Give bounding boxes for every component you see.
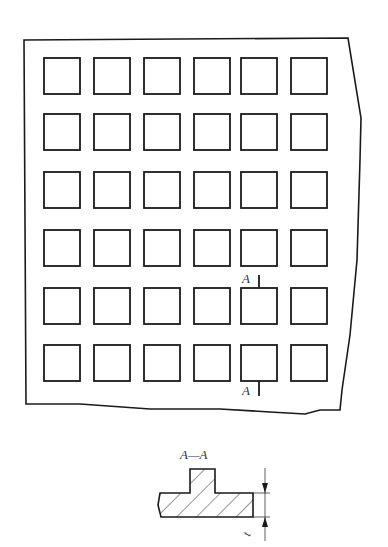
drawing-canvas: A A A—A t bbox=[0, 0, 388, 547]
section-view-title: A—A bbox=[180, 448, 207, 461]
square-hole bbox=[144, 172, 180, 208]
square-hole bbox=[44, 114, 80, 150]
square-hole bbox=[194, 288, 230, 324]
square-hole bbox=[291, 114, 327, 150]
square-hole bbox=[194, 345, 230, 381]
square-hole bbox=[144, 114, 180, 150]
square-hole bbox=[44, 288, 80, 324]
arrow-up-icon bbox=[262, 517, 268, 527]
section-profile bbox=[158, 469, 253, 517]
perforated-plate bbox=[24, 38, 361, 414]
square-hole bbox=[94, 58, 130, 94]
square-hole bbox=[94, 172, 130, 208]
square-hole bbox=[44, 172, 80, 208]
square-hole bbox=[194, 58, 230, 94]
square-hole bbox=[241, 345, 277, 381]
square-hole bbox=[194, 172, 230, 208]
square-hole bbox=[94, 230, 130, 266]
square-hole bbox=[194, 114, 230, 150]
square-hole bbox=[241, 230, 277, 266]
square-hole bbox=[44, 345, 80, 381]
square-holes-grid bbox=[44, 58, 327, 381]
square-hole bbox=[194, 230, 230, 266]
square-hole bbox=[291, 288, 327, 324]
section-label-top: A bbox=[242, 272, 250, 285]
square-hole bbox=[44, 58, 80, 94]
square-hole bbox=[94, 288, 130, 324]
square-hole bbox=[94, 114, 130, 150]
square-hole bbox=[144, 288, 180, 324]
arrow-down-icon bbox=[262, 483, 268, 493]
square-hole bbox=[291, 58, 327, 94]
drawing-svg bbox=[0, 0, 388, 547]
square-hole bbox=[144, 345, 180, 381]
square-hole bbox=[144, 58, 180, 94]
square-hole bbox=[241, 172, 277, 208]
section-view bbox=[158, 468, 270, 541]
square-hole bbox=[94, 345, 130, 381]
square-hole bbox=[241, 288, 277, 324]
square-hole bbox=[291, 172, 327, 208]
square-hole bbox=[241, 58, 277, 94]
square-hole bbox=[291, 345, 327, 381]
square-hole bbox=[291, 230, 327, 266]
square-hole bbox=[44, 230, 80, 266]
square-hole bbox=[144, 230, 180, 266]
section-label-bottom: A bbox=[242, 384, 250, 397]
square-hole bbox=[241, 114, 277, 150]
